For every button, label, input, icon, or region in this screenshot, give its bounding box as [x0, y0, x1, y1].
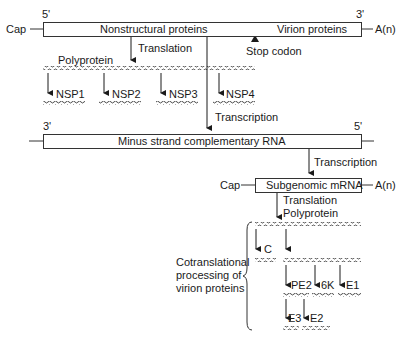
stop-codon-label: Stop codon: [246, 45, 302, 57]
minus-strand-label: Minus strand complementary RNA: [118, 135, 286, 147]
nonstructural-label: Nonstructural proteins: [100, 23, 208, 35]
minus-three-prime-label: 3': [43, 120, 51, 132]
translation-label-2: Translation: [283, 194, 337, 206]
nsp3-label: NSP3: [169, 88, 198, 100]
subgenomic-cap-label: Cap: [220, 179, 240, 191]
polyprotein-label-2: Polyprotein: [283, 207, 338, 219]
e1-label: E1: [346, 279, 359, 291]
transcription-label-1: Transcription: [215, 111, 278, 123]
transcription-label-2: Transcription: [314, 156, 377, 168]
genome-polya-label: A(n): [375, 23, 396, 35]
nsp2-label: NSP2: [112, 88, 141, 100]
genome-three-prime-label: 3': [356, 8, 364, 20]
virion-label: Virion proteins: [277, 23, 347, 35]
cotranslational-processing-label: Cotranslational processing of virion pro…: [176, 256, 249, 295]
genome-five-prime-label: 5': [42, 8, 50, 20]
genome-cap-label: Cap: [6, 23, 26, 35]
translation-label: Translation: [138, 42, 192, 54]
6k-label: 6K: [321, 279, 334, 291]
e3-label: E3: [288, 312, 301, 324]
pe2-label: PE2: [291, 279, 312, 291]
subgenomic-polya-label: A(n): [375, 179, 396, 191]
subgenomic-label: Subgenomic mRNA: [266, 179, 363, 191]
minus-five-prime-label: 5': [354, 120, 362, 132]
polyprotein-label: Polyprotein: [58, 54, 113, 66]
nsp1-label: NSP1: [56, 88, 85, 100]
nsp4-label: NSP4: [226, 88, 255, 100]
e2-label: E2: [310, 312, 323, 324]
capsid-label: C: [264, 243, 272, 255]
